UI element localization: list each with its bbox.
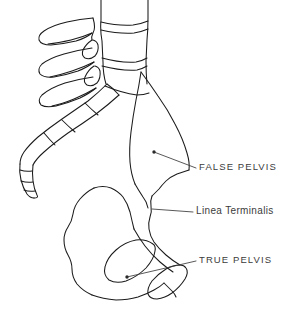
leader-dot-false-pelvis (152, 150, 155, 153)
iliac-wing-inferior-margin (152, 170, 189, 196)
linea-terminalis-curve (149, 196, 180, 265)
iliac-wing-group (130, 72, 190, 196)
vertebral-body-column-left-edge (101, 0, 106, 84)
intervertebral-disc-line-l2 (101, 29, 148, 33)
ischiopubic-ramus (134, 229, 173, 272)
pelvic-brim-group (135, 184, 180, 265)
leader-line-linea-terminalis (152, 209, 193, 212)
intervertebral-disc-line-l3 (102, 58, 147, 62)
spinous-process-middle-ridge (50, 62, 94, 77)
vertebral-body-column-right-edge (146, 0, 148, 84)
sacrum-group (20, 84, 119, 165)
label-linea-terminalis: Linea Terminalis (196, 206, 274, 216)
intervertebral-disc-line-l4 (102, 66, 147, 70)
spinous-processes-group (39, 18, 100, 107)
greater-sciatic-notch (135, 184, 148, 208)
anatomical-figure: FALSE PELVIS Linea Terminalis TRUE PELVI… (0, 0, 287, 318)
lumbar-vertebrae-group (101, 0, 149, 95)
coccyx-group (20, 164, 38, 198)
pelvis-line-drawing (0, 0, 287, 318)
callout-leaders-group (125, 150, 196, 278)
coccyx-segment-line-2 (21, 181, 33, 182)
pelvis-inferior-outline (92, 283, 164, 300)
sacrum-anterior-border (20, 84, 107, 164)
ischial-tuberosity-outline (148, 265, 187, 299)
sacrum-posterior-border (33, 95, 119, 165)
lower-pelvis-group (64, 187, 173, 301)
spinous-process-lower-ridge (52, 88, 96, 106)
sacral-segment-line-3 (44, 133, 55, 145)
leader-dot-true-pelvis (125, 275, 128, 278)
iliac-wing-posterior-border (130, 72, 141, 184)
label-true-pelvis: TRUE PELVIS (199, 255, 272, 265)
intervertebral-disc-line-l1 (101, 21, 148, 25)
pelvis-anterior-outline (64, 188, 94, 295)
pelvis-superior-anterior-curve (94, 187, 134, 230)
coccyx-segment-line-1 (20, 170, 32, 171)
sacral-segment-line-2 (62, 120, 75, 132)
ischial-tuberosity-group (148, 265, 187, 299)
spinous-process-lower (39, 77, 96, 107)
spinous-process-transition-notch (92, 18, 95, 40)
sacral-segment-line-1 (85, 103, 98, 115)
articular-facet-lower (84, 66, 100, 86)
iliac-crest-superior-border (141, 72, 189, 170)
leader-line-false-pelvis (154, 152, 196, 168)
label-false-pelvis: FALSE PELVIS (199, 162, 277, 172)
coccyx-posterior-border (33, 165, 38, 198)
